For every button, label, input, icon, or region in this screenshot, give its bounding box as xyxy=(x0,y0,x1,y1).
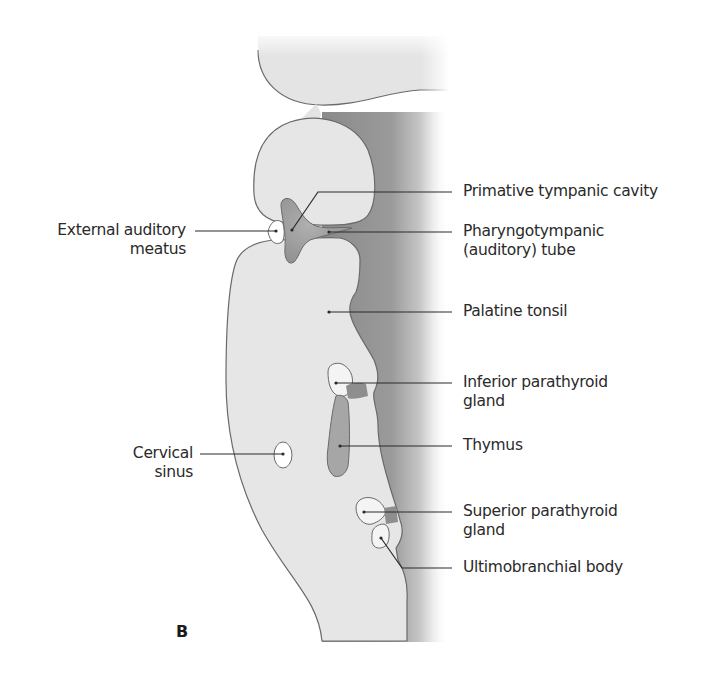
label-pharyngotympanic-tube: Pharyngotympanic (auditory) tube xyxy=(463,222,604,260)
fourth-pouch-connector xyxy=(384,506,398,524)
label-cervical-sinus: Cervical sinus xyxy=(133,444,193,482)
label-primative-tympanic-cavity: Primative tympanic cavity xyxy=(463,182,658,201)
label-palatine-tonsil: Palatine tonsil xyxy=(463,302,567,321)
right-edge-fade xyxy=(420,30,450,645)
label-superior-parathyroid-gland: Superior parathyroid gland xyxy=(463,502,617,540)
label-external-auditory-meatus: External auditory meatus xyxy=(57,221,186,259)
label-inferior-parathyroid-gland: Inferior parathyroid gland xyxy=(463,373,608,411)
label-thymus: Thymus xyxy=(463,436,523,455)
third-pouch-connector xyxy=(346,383,368,399)
panel-letter: B xyxy=(176,622,188,641)
pharyngeal-arch-diagram: External auditory meatus Cervical sinus … xyxy=(0,0,704,678)
label-ultimobranchial-body: Ultimobranchial body xyxy=(463,558,623,577)
first-pharyngeal-arch xyxy=(254,118,375,225)
ultimobranchial-body-shape xyxy=(372,524,389,548)
